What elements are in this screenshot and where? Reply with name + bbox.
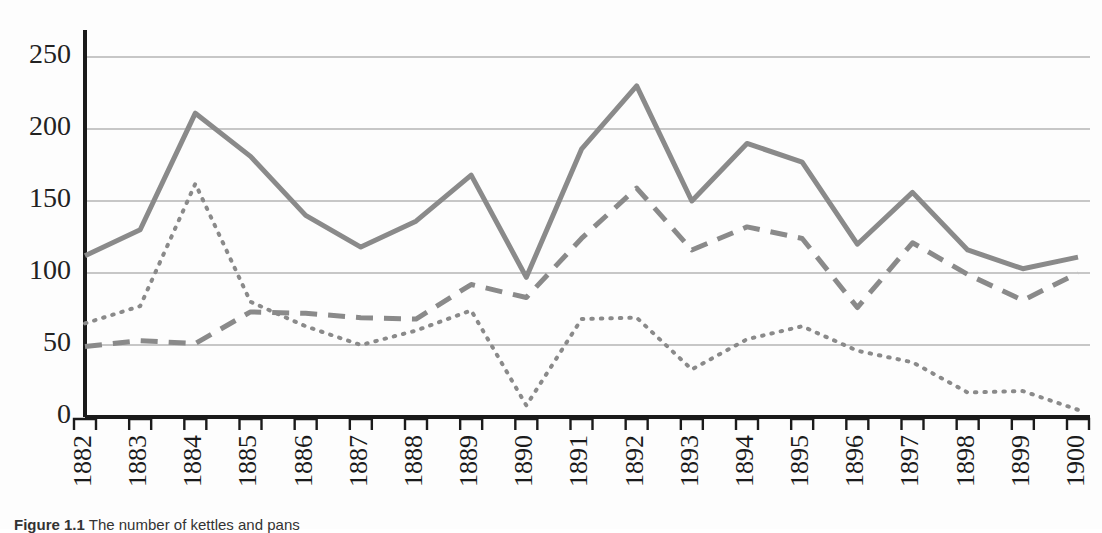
data-series — [85, 86, 1078, 410]
x-tick-label: 1886 — [289, 435, 318, 487]
y-tick-label: 0 — [57, 398, 71, 429]
x-tick-mark — [902, 419, 924, 430]
series-line-dotted-series — [85, 184, 1078, 410]
x-axis-labels: 1882188318841885188618871888188918901891… — [68, 435, 1090, 487]
x-tick-label: 1897 — [895, 435, 924, 487]
x-tick-label: 1889 — [454, 435, 483, 487]
x-tick-mark — [295, 419, 317, 430]
x-tick-label: 1900 — [1061, 435, 1090, 487]
x-tick-label: 1891 — [564, 435, 593, 487]
axis-tick-marks — [74, 419, 1089, 430]
x-tick-mark — [350, 419, 372, 430]
x-tick-label: 1894 — [730, 435, 759, 487]
x-tick-mark — [791, 419, 813, 430]
x-tick-mark — [571, 419, 593, 430]
x-tick-mark — [846, 419, 868, 430]
figure-caption-body: The number of kettles and pans — [89, 516, 300, 533]
x-tick-label: 1885 — [233, 435, 262, 487]
x-tick-label: 1895 — [785, 435, 814, 487]
x-tick-label: 1890 — [509, 435, 538, 487]
x-tick-label: 1882 — [68, 435, 97, 487]
x-tick-mark — [129, 419, 151, 430]
y-tick-label: 200 — [29, 110, 71, 141]
x-tick-label: 1887 — [344, 435, 373, 487]
x-tick-mark — [240, 419, 262, 430]
x-tick-mark — [515, 419, 537, 430]
x-tick-mark — [74, 419, 96, 430]
x-tick-label: 1893 — [675, 435, 704, 487]
x-tick-mark — [736, 419, 758, 430]
x-tick-label: 1899 — [1006, 435, 1035, 487]
y-tick-label: 100 — [29, 254, 71, 285]
y-tick-label: 50 — [43, 326, 71, 357]
x-tick-mark — [957, 419, 979, 430]
gridlines — [85, 57, 1090, 345]
figure-caption-label: Figure 1.1 — [14, 516, 85, 533]
x-tick-label: 1888 — [399, 435, 428, 487]
series-line-solid-series — [85, 86, 1078, 278]
y-tick-label: 250 — [29, 38, 71, 69]
x-tick-label: 1896 — [840, 435, 869, 487]
x-tick-label: 1898 — [951, 435, 980, 487]
x-tick-label: 1883 — [123, 435, 152, 487]
y-tick-label: 150 — [29, 182, 71, 213]
x-tick-mark — [626, 419, 648, 430]
x-tick-mark — [1067, 419, 1089, 430]
x-tick-mark — [184, 419, 206, 430]
x-tick-label: 1884 — [178, 435, 207, 487]
figure-caption: Figure 1.1 The number of kettles and pan… — [14, 516, 300, 533]
x-tick-mark — [405, 419, 427, 430]
x-tick-label: 1892 — [620, 435, 649, 487]
x-tick-mark — [460, 419, 482, 430]
y-axis-labels: 050100150200250 — [29, 38, 71, 429]
x-tick-mark — [681, 419, 703, 430]
x-tick-mark — [1012, 419, 1034, 430]
